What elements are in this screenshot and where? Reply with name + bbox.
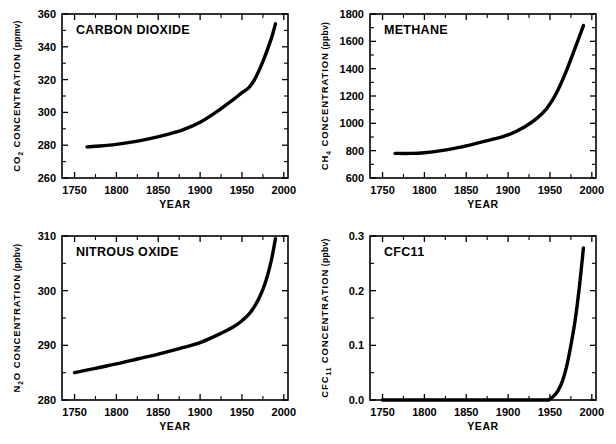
x-axis-title: YEAR — [159, 420, 191, 432]
y-tick-label: 1200 — [340, 90, 364, 102]
y-axis-units: (ppbv) — [12, 244, 22, 272]
svg-text:CO2 CONCENTRATION (ppmv): CO2 CONCENTRATION (ppmv) — [11, 20, 24, 171]
x-tick-label: 1800 — [104, 406, 128, 418]
chart-svg-ch4: 60080010001200140016001800 1750180018501… — [308, 0, 616, 222]
y-axis-ticks — [62, 14, 288, 178]
svg-text:N2O CONCENTRATION (ppbv): N2O CONCENTRATION (ppbv) — [11, 244, 24, 393]
svg-text:CFC11 CONCENTRATION (ppbv): CFC11 CONCENTRATION (ppbv) — [319, 238, 332, 397]
y-tick-label: 0.2 — [349, 285, 364, 297]
y-tick-label: 280 — [38, 139, 56, 151]
y-axis-tick-labels: 0.00.10.20.3 — [349, 230, 364, 406]
x-axis-title: YEAR — [467, 198, 499, 210]
y-tick-label: 340 — [38, 41, 56, 53]
y-axis-species: CFC — [319, 375, 330, 397]
y-axis-subscript: 11 — [325, 367, 332, 376]
x-axis-title: YEAR — [159, 198, 191, 210]
y-tick-label: 310 — [38, 230, 56, 242]
x-axis-tick-labels: 175018001850190019502000 — [62, 406, 296, 418]
x-tick-label: 1900 — [188, 406, 212, 418]
x-axis-tick-labels: 175018001850190019502000 — [370, 406, 604, 418]
y-tick-label: 280 — [38, 394, 56, 406]
x-tick-label: 1950 — [538, 406, 562, 418]
y-axis-title-n2o: N2O CONCENTRATION (ppbv) — [11, 244, 24, 393]
y-axis-tick-labels: 260280300320340360 — [38, 8, 56, 184]
x-tick-label: 1750 — [62, 184, 86, 196]
y-tick-label: 260 — [38, 172, 56, 184]
x-tick-label: 1900 — [188, 184, 212, 196]
y-tick-label: 320 — [38, 74, 56, 86]
x-tick-label: 1850 — [146, 406, 170, 418]
y-tick-label: 1400 — [340, 63, 364, 75]
x-tick-label: 1750 — [370, 184, 394, 196]
y-axis-title-ch4: CH4 CONCENTRATION (ppbv) — [319, 22, 332, 170]
chart-panel-methane: 60080010001200140016001800 1750180018501… — [308, 0, 616, 222]
x-tick-label: 1950 — [230, 406, 254, 418]
y-axis-species: CH — [319, 155, 330, 171]
x-tick-label: 2000 — [272, 184, 296, 196]
data-curve-co2 — [87, 24, 275, 147]
y-tick-label: 1800 — [340, 8, 364, 20]
y-tick-label: 600 — [346, 172, 364, 184]
y-axis-word: CONCENTRATION — [319, 269, 330, 363]
x-axis-ticks — [75, 236, 284, 400]
panel-title-co2: CARBON DIOXIDE — [76, 23, 190, 37]
chart-panel-nitrous-oxide: 280290300310 175018001850190019502000 NI… — [0, 222, 308, 444]
panel-title-n2o: NITROUS OXIDE — [76, 245, 179, 259]
x-tick-label: 1850 — [454, 406, 478, 418]
y-tick-label: 800 — [346, 145, 364, 157]
y-axis-tick-labels: 280290300310 — [38, 230, 56, 406]
x-tick-label: 2000 — [580, 184, 604, 196]
x-axis-ticks — [383, 236, 592, 400]
x-tick-label: 2000 — [272, 406, 296, 418]
y-axis-units: (ppbv) — [320, 22, 330, 50]
y-tick-label: 300 — [38, 106, 56, 118]
x-tick-label: 1800 — [412, 406, 436, 418]
plot-frame — [62, 236, 288, 400]
y-tick-label: 290 — [38, 339, 56, 351]
x-tick-label: 1850 — [146, 184, 170, 196]
y-axis-word: CONCENTRATION — [319, 52, 330, 146]
x-tick-label: 1850 — [454, 184, 478, 196]
y-axis-units: (ppmv) — [12, 20, 22, 50]
y-axis-ticks — [370, 236, 596, 400]
x-tick-label: 1900 — [496, 184, 520, 196]
x-axis-ticks — [75, 14, 284, 178]
x-tick-label: 1800 — [104, 184, 128, 196]
x-tick-label: 1900 — [496, 406, 520, 418]
chart-svg-n2o: 280290300310 175018001850190019502000 NI… — [0, 222, 308, 444]
x-tick-label: 1750 — [370, 406, 394, 418]
data-curve-ch4 — [395, 26, 583, 154]
x-tick-label: 1800 — [412, 184, 436, 196]
plot-area-ch4: 60080010001200140016001800 1750180018501… — [340, 8, 605, 196]
y-axis-ticks — [62, 236, 288, 400]
y-axis-species: CO — [11, 156, 22, 172]
y-tick-label: 360 — [38, 8, 56, 20]
chart-panel-cfc11: 0.00.10.20.3 175018001850190019502000 CF… — [308, 222, 616, 444]
y-axis-title-co2: CO2 CONCENTRATION (ppmv) — [11, 20, 24, 171]
panel-title-cfc11: CFC11 — [384, 245, 424, 259]
chart-svg-co2: 260280300320340360 175018001850190019502… — [0, 0, 308, 222]
plot-frame — [62, 14, 288, 178]
x-tick-label: 1750 — [62, 406, 86, 418]
y-tick-label: 0.1 — [349, 339, 364, 351]
x-axis-tick-labels: 175018001850190019502000 — [370, 184, 604, 196]
greenhouse-gas-figure: 260280300320340360 175018001850190019502… — [0, 0, 616, 444]
y-axis-tick-labels: 60080010001200140016001800 — [340, 8, 364, 184]
y-tick-label: 300 — [38, 285, 56, 297]
data-curve-cfc11 — [383, 248, 584, 400]
svg-text:CH4 CONCENTRATION (ppbv): CH4 CONCENTRATION (ppbv) — [319, 22, 332, 170]
y-axis-title-cfc11: CFC11 CONCENTRATION (ppbv) — [319, 238, 332, 397]
y-axis-word: CONCENTRATION — [11, 274, 22, 368]
y-tick-label: 0.3 — [349, 230, 364, 242]
y-axis-units: (ppbv) — [320, 238, 330, 266]
x-tick-label: 1950 — [538, 184, 562, 196]
x-tick-label: 2000 — [580, 406, 604, 418]
y-tick-label: 1600 — [340, 35, 364, 47]
panel-title-ch4: METHANE — [384, 23, 448, 37]
y-axis-word: CONCENTRATION — [11, 53, 22, 147]
x-tick-label: 1950 — [230, 184, 254, 196]
y-axis-species: N — [11, 385, 22, 393]
y-tick-label: 1000 — [340, 117, 364, 129]
x-axis-tick-labels: 175018001850190019502000 — [62, 184, 296, 196]
x-axis-title: YEAR — [467, 420, 499, 432]
